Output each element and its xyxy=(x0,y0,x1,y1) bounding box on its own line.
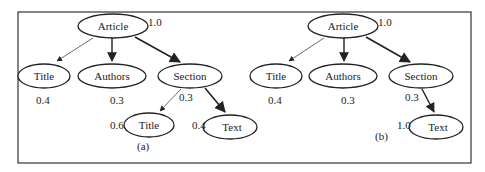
node-section-title: Title xyxy=(124,113,174,137)
weight-label: 0.4 xyxy=(268,94,282,106)
node-label: Text xyxy=(222,121,241,133)
weight-label: 1.0 xyxy=(397,119,411,131)
weight-label: 1.0 xyxy=(148,16,162,28)
edge-article-section xyxy=(135,37,180,62)
diagram-canvas: Article 1.0 Title 0.4 Authors 0.3 Sectio… xyxy=(0,0,485,172)
node-article: Article xyxy=(308,14,378,38)
node-title: Title xyxy=(250,64,302,88)
node-authors: Authors xyxy=(78,64,146,88)
node-title: Title xyxy=(18,64,70,88)
node-section-text: Text xyxy=(203,115,257,139)
node-label: Article xyxy=(328,20,359,32)
edge-article-title xyxy=(57,38,93,61)
node-authors: Authors xyxy=(309,64,377,88)
weight-label: 0.3 xyxy=(341,94,355,106)
edge-section-text xyxy=(205,88,225,112)
node-label: Section xyxy=(405,70,438,82)
node-section-text: Text xyxy=(409,115,463,139)
edge-article-section xyxy=(366,37,410,62)
panel-b: Article 1.0 Title 0.4 Authors 0.3 Sectio… xyxy=(250,14,463,143)
node-section: Section xyxy=(389,64,453,88)
weight-label: 0.3 xyxy=(179,91,193,103)
weight-label: 0.3 xyxy=(405,91,419,103)
node-label: Title xyxy=(266,70,287,82)
node-label: Text xyxy=(428,121,447,133)
weight-label: 0.3 xyxy=(110,94,124,106)
edge-section-text xyxy=(422,89,434,112)
node-label: Title xyxy=(34,70,55,82)
caption-a: (a) xyxy=(137,140,150,153)
node-article: Article xyxy=(78,14,148,38)
node-label: Authors xyxy=(325,70,360,82)
node-label: Section xyxy=(174,70,207,82)
weight-label: 1.0 xyxy=(378,16,392,28)
panel-a: Article 1.0 Title 0.4 Authors 0.3 Sectio… xyxy=(18,14,257,153)
weight-label: 0.4 xyxy=(36,94,50,106)
edge-section-title xyxy=(160,89,181,111)
node-label: Article xyxy=(98,20,129,32)
figure-frame xyxy=(18,12,471,163)
weight-label: 0.4 xyxy=(192,119,206,131)
node-label: Title xyxy=(139,119,160,131)
caption-b: (b) xyxy=(375,130,388,143)
edge-article-title xyxy=(289,38,324,61)
node-section: Section xyxy=(158,64,222,88)
weight-label: 0.6 xyxy=(110,119,124,131)
node-label: Authors xyxy=(94,70,129,82)
